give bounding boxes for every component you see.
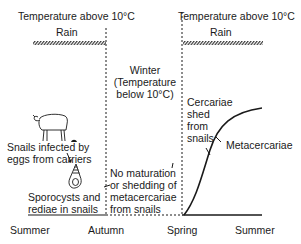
sporocysts-line-1: Sporocysts and [28,191,100,203]
winter-line-2: (Temperature [108,76,182,88]
cercariae-line-2: shed [187,108,233,120]
cercariae-line-1: Cercariae [187,96,233,108]
no-maturation-line-4: from snails [110,203,177,215]
snail-icon [69,164,81,188]
season-label-summer-end: Summer [235,224,275,236]
no-maturation-line-3: metacercariae [110,191,177,203]
sheep-icon [33,114,67,141]
temperature-label-right: Temperature above 10°C [178,10,295,22]
season-label-autumn: Autumn [88,224,124,236]
rain-bar-right [183,41,263,45]
season-label-spring: Spring [167,224,197,236]
sporocysts-line-2: rediae in snails [28,203,100,215]
sporocysts-label: Sporocysts and rediae in snails [28,191,100,215]
cercariae-label: Cercariae shed from snails [187,96,233,144]
snails-infected-line-1: Snails infected by [7,141,92,153]
cercariae-line-3: from [187,120,233,132]
snails-infected-label: Snails infected by eggs from carriers [7,141,92,165]
season-label-summer-start: Summer [10,224,50,236]
rain-bar-left [33,41,106,45]
winter-line-3: below 10°C) [108,88,182,100]
no-maturation-line-2: or shedding of [110,179,177,191]
snails-infected-line-2: eggs from carriers [7,153,92,165]
rain-label-right: Rain [210,26,232,38]
rain-label-left: Rain [56,26,78,38]
no-maturation-label: No maturation or shedding of metacercari… [110,167,177,215]
metacercariae-label: Metacercariae [226,139,293,151]
no-maturation-line-1: No maturation [110,167,177,179]
temperature-label-left: Temperature above 10°C [18,10,135,22]
winter-label: Winter (Temperature below 10°C) [108,64,182,100]
winter-line-1: Winter [108,64,182,76]
